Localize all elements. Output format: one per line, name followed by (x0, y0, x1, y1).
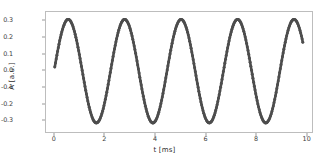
x-tick-label: 4 (153, 136, 157, 142)
x-tick-mark (256, 133, 257, 137)
x-tick-mark (154, 133, 155, 137)
y-tick-mark (42, 103, 46, 104)
chart-figure: -0.3-0.2-0.10.00.10.20.3 0246810 t [ms] … (0, 0, 329, 161)
y-tick-mark (42, 120, 46, 121)
waveform-curve (46, 12, 312, 132)
x-tick-mark (53, 133, 54, 137)
y-tick-label: 0.2 (3, 34, 13, 40)
x-tick-label: 0 (52, 136, 56, 142)
y-tick-mark (42, 87, 46, 88)
x-tick-mark (306, 133, 307, 137)
y-tick-mark (42, 20, 46, 21)
y-tick-mark (42, 36, 46, 37)
y-tick-mark (42, 53, 46, 54)
x-tick-label: 2 (102, 136, 106, 142)
y-tick-label: 0.3 (3, 17, 13, 23)
x-tick-label: 6 (204, 136, 208, 142)
y-tick-mark (42, 70, 46, 71)
x-tick-mark (104, 133, 105, 137)
x-tick-label: 8 (254, 136, 258, 142)
x-tick-label: 10 (303, 136, 311, 142)
plot-area (45, 11, 313, 133)
y-axis-label: A [a.u.] (8, 41, 16, 111)
y-tick-label: -0.3 (1, 117, 13, 123)
x-axis-label: t [ms] (0, 146, 329, 154)
x-tick-mark (205, 133, 206, 137)
